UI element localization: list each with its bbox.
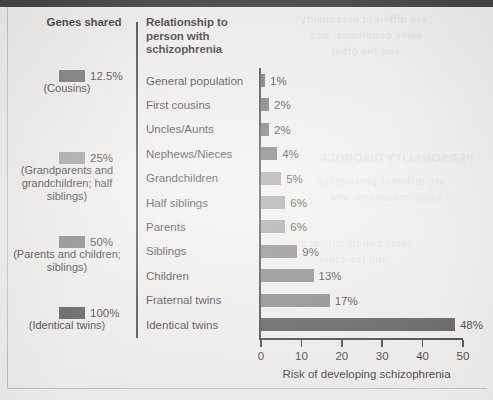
bar-value-label: 2% (274, 99, 291, 111)
bar-value-label: 13% (319, 270, 342, 282)
bar-value-label: 1% (270, 75, 287, 87)
legend-detail-label: (Parents and children; siblings) (2, 248, 136, 274)
legend-detail-label: (Identical twins) (2, 319, 136, 332)
ghost-text-line-b2: are different personality (318, 176, 444, 187)
x-axis-tick (301, 340, 303, 347)
x-axis-tick (462, 340, 464, 347)
legend-entry: 25%(Grandparents and grandchildren; half… (2, 152, 136, 202)
legend-entry: 100%(Identical twins) (2, 307, 136, 332)
x-axis-title: Risk of developing schizophrenia (259, 368, 474, 381)
legend-color-swatch (59, 152, 85, 164)
relationship-label: Identical twins (146, 319, 218, 331)
legend-detail-label: (Grandparents and grandchildren; half si… (2, 164, 136, 202)
x-axis-tick-label: 20 (335, 350, 348, 362)
top-black-bar (0, 0, 493, 7)
relationship-label: Parents (146, 221, 186, 233)
bar-value-label: 6% (290, 197, 307, 209)
legend-percent-label: 100% (87, 307, 130, 319)
bar-value-label: 4% (282, 148, 299, 160)
ghost-text-line-b: are different personality (300, 14, 426, 25)
bar-value-label: 5% (286, 173, 303, 185)
bar-value-label: 2% (274, 124, 291, 136)
x-axis-tick-label: 0 (258, 350, 264, 362)
legend-percent-label: 50% (87, 236, 130, 248)
bar (261, 318, 455, 331)
legend-entry: 50%(Parents and children; siblings) (2, 236, 136, 274)
legend-percent-label: 12.5% (87, 70, 130, 82)
relationship-label: Children (146, 270, 189, 282)
bar (261, 74, 265, 87)
bar (261, 147, 277, 160)
bar (261, 196, 285, 209)
bar-value-label: 9% (302, 246, 319, 258)
ghost-text-line-d: and the other (330, 46, 400, 57)
relationship-label: General population (146, 75, 243, 87)
x-axis-tick-label: 50 (457, 350, 470, 362)
legend-detail-label: (Cousins) (2, 82, 136, 95)
bar (261, 245, 297, 258)
ghost-text-line-d2: and the other (318, 254, 388, 265)
y-axis-line (259, 68, 261, 338)
legend-color-swatch (59, 70, 85, 82)
ghost-text-line-a: PERSONALITY DISORDER (318, 152, 473, 164)
bar (261, 123, 269, 136)
legend-entry-head: 12.5% (2, 70, 136, 82)
bar (261, 98, 269, 111)
relationship-label: First cousins (146, 99, 211, 111)
x-axis-tick (422, 340, 424, 347)
bar (261, 269, 314, 282)
legend-entry-head: 100% (2, 307, 136, 319)
x-axis-tick-label: 40 (416, 350, 429, 362)
relationship-label: Grandchildren (146, 172, 218, 184)
x-axis-line (259, 338, 463, 340)
bar-value-label: 17% (335, 295, 358, 307)
relationship-label: Nephews/Nieces (146, 148, 232, 160)
legend-entry-head: 25% (2, 152, 136, 164)
legend-color-swatch (59, 236, 85, 248)
genes-shared-header: Genes shared (36, 16, 132, 30)
relationship-label: Siblings (146, 245, 186, 257)
relationship-label: Fraternal twins (146, 294, 221, 306)
x-axis-tick-label: 30 (376, 350, 389, 362)
relationship-label: Half siblings (146, 197, 208, 209)
x-axis-tick (260, 340, 262, 347)
bar (261, 294, 330, 307)
bottom-border-rule (7, 388, 487, 389)
schizophrenia-risk-figure: are different personality same condition… (0, 0, 493, 400)
bar-value-label: 6% (290, 221, 307, 233)
ghost-text-line-c3: same conditions, and (300, 238, 412, 249)
ghost-text-line-c2: same conditions, and (330, 192, 442, 203)
legend-percent-label: 25% (87, 152, 130, 164)
legend-color-swatch (59, 307, 85, 319)
bar (261, 220, 285, 233)
legend-entry: 12.5%(Cousins) (2, 70, 136, 95)
x-axis-tick-label: 10 (295, 350, 308, 362)
relationship-label: Uncles/Aunts (146, 123, 214, 135)
x-axis-tick (381, 340, 383, 347)
bar (261, 172, 281, 185)
x-axis-tick (341, 340, 343, 347)
bar-value-label: 48% (460, 319, 483, 331)
ghost-text-line-c: same conditions, and (310, 30, 422, 41)
column-divider-rule (136, 22, 138, 338)
legend-entry-head: 50% (2, 236, 136, 248)
relationship-header: Relationship to person with schizophreni… (146, 16, 266, 57)
